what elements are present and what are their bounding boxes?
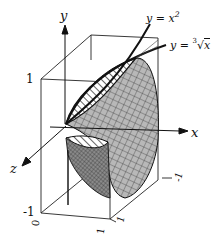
cuberoot-label-text: y = [170,39,192,52]
y-tick-neg1: -1 [23,206,35,218]
parabola-label-text: y = x [146,12,175,25]
cuberoot-label: y = 3√x [170,40,210,51]
y-axis-label: y [60,9,67,22]
parabola-exponent: 2 [175,10,180,19]
x-tick-neg1: -1 [173,171,185,182]
x-axis-label: x [191,126,198,139]
cuberoot-radicand: x [204,38,210,52]
cuberoot-index: 3 [192,37,196,45]
parabola-label: y = x2 [146,13,180,24]
z-axis-label: z [10,162,17,175]
y-tick-1: 1 [26,73,34,85]
solid-of-revolution-figure: y x z y = x2 y = 3√x 1 -1 0 -1 1 1 [0,0,221,245]
z-axis [22,126,66,166]
y-axis [62,25,68,205]
